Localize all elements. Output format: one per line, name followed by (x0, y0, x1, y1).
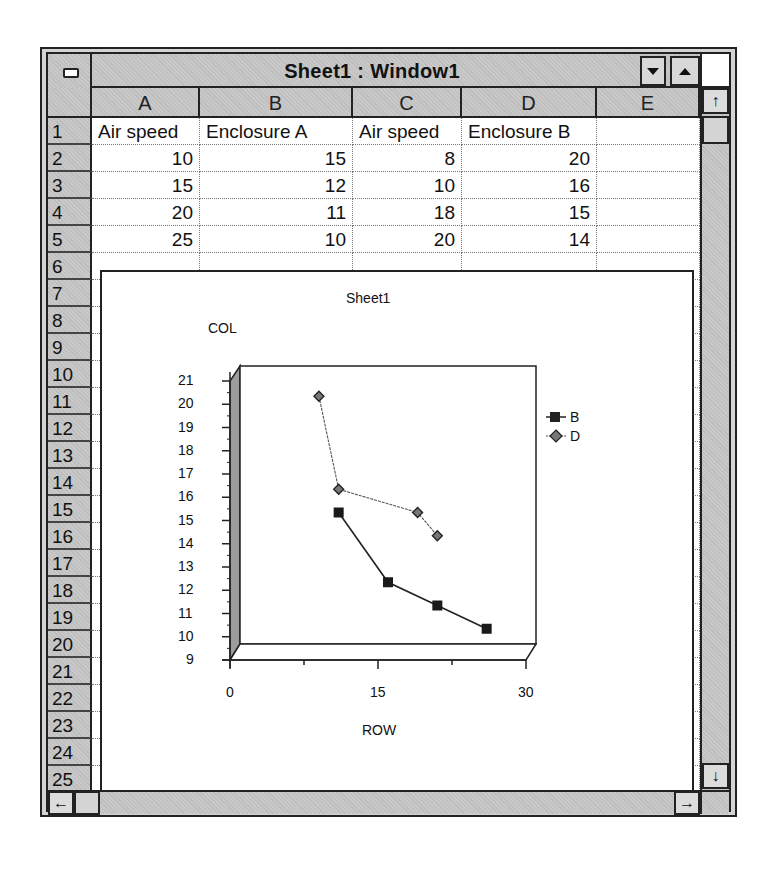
y-tick-label: 14 (178, 535, 194, 551)
cell-d3[interactable]: 16 (462, 172, 597, 199)
cell-d5[interactable]: 14 (462, 226, 597, 253)
chart-plot (102, 272, 692, 793)
row-header-21[interactable]: 21 (48, 658, 92, 685)
window-title: Sheet1 : Window1 (92, 54, 652, 88)
column-header-e[interactable]: E (597, 88, 700, 118)
y-tick-label: 13 (178, 558, 194, 574)
cell-d2[interactable]: 20 (462, 145, 597, 172)
cell-e4[interactable] (597, 199, 700, 226)
cell-a1[interactable]: Air speed (92, 118, 200, 145)
y-tick-label: 21 (178, 372, 194, 388)
row-header-19[interactable]: 19 (48, 604, 92, 631)
cell-e2[interactable] (597, 145, 700, 172)
column-header-a[interactable]: A (92, 88, 200, 118)
cell-d4[interactable]: 15 (462, 199, 597, 226)
cell-c5[interactable]: 20 (353, 226, 462, 253)
cell-b5[interactable]: 10 (200, 226, 353, 253)
maximize-button[interactable] (670, 56, 700, 86)
cell-a4[interactable]: 20 (92, 199, 200, 226)
size-box (700, 790, 729, 814)
legend-label-b: B (570, 409, 579, 425)
row-header-14[interactable]: 14 (48, 469, 92, 496)
chart-legend (546, 412, 566, 442)
row-header-15[interactable]: 15 (48, 496, 92, 523)
y-tick-label: 11 (178, 605, 193, 621)
cell-c4[interactable]: 18 (353, 199, 462, 226)
cell-a5[interactable]: 25 (92, 226, 200, 253)
triangle-down-icon (647, 68, 659, 75)
horizontal-scrollbar[interactable]: ← → (48, 790, 700, 814)
cell-b1[interactable]: Enclosure A (200, 118, 353, 145)
y-tick-label: 10 (178, 628, 194, 644)
y-tick-label: 20 (178, 395, 194, 411)
chart-title: Sheet1 (346, 290, 390, 306)
arrow-down-icon: ↓ (712, 767, 720, 785)
row-header-3[interactable]: 3 (48, 172, 92, 199)
control-menu-icon (63, 68, 79, 78)
row-header-22[interactable]: 22 (48, 685, 92, 712)
vertical-scrollbar[interactable]: ↑ ↓ (700, 88, 729, 791)
row-header-16[interactable]: 16 (48, 523, 92, 550)
row-header-9[interactable]: 9 (48, 334, 92, 361)
title-corner (700, 54, 729, 88)
row-header-5[interactable]: 5 (48, 226, 92, 253)
scroll-down-button[interactable]: ↓ (702, 763, 729, 789)
row-header-18[interactable]: 18 (48, 577, 92, 604)
cell-a3[interactable]: 15 (92, 172, 200, 199)
column-header-b[interactable]: B (200, 88, 353, 118)
row-header-12[interactable]: 12 (48, 415, 92, 442)
cell-c3[interactable]: 10 (353, 172, 462, 199)
select-all-corner[interactable] (48, 88, 92, 118)
cell-b2[interactable]: 15 (200, 145, 353, 172)
row-header-6[interactable]: 6 (48, 253, 92, 280)
row-header-7[interactable]: 7 (48, 280, 92, 307)
row-header-13[interactable]: 13 (48, 442, 92, 469)
arrow-right-icon: → (679, 794, 695, 812)
x-tick-label: 0 (226, 684, 234, 700)
cell-b3[interactable]: 12 (200, 172, 353, 199)
control-menu-button[interactable] (48, 54, 92, 88)
cell-a2[interactable]: 10 (92, 145, 200, 172)
row-header-11[interactable]: 11 (48, 388, 92, 415)
horizontal-scroll-thumb[interactable] (74, 791, 100, 815)
column-header-d[interactable]: D (462, 88, 597, 118)
chart-x-axis-label: ROW (362, 722, 396, 738)
vertical-scroll-thumb[interactable] (702, 116, 729, 144)
row-header-24[interactable]: 24 (48, 739, 92, 766)
row-header-8[interactable]: 8 (48, 307, 92, 334)
cell-e3[interactable] (597, 172, 700, 199)
column-header-c[interactable]: C (353, 88, 462, 118)
row-header-10[interactable]: 10 (48, 361, 92, 388)
row-header-25[interactable]: 25 (48, 766, 92, 793)
x-tick-label: 30 (518, 684, 534, 700)
cell-c1[interactable]: Air speed (353, 118, 462, 145)
arrow-up-icon: ↑ (712, 92, 720, 110)
scroll-right-button[interactable]: → (674, 791, 700, 815)
row-header-20[interactable]: 20 (48, 631, 92, 658)
cell-b4[interactable]: 11 (200, 199, 353, 226)
chart-y-axis-label: COL (208, 320, 237, 336)
arrow-left-icon: ← (53, 794, 69, 812)
y-tick-label: 12 (178, 581, 194, 597)
y-tick-label: 9 (186, 651, 194, 667)
x-tick-label: 15 (370, 684, 386, 700)
minimize-button[interactable] (640, 56, 666, 86)
embedded-chart[interactable]: Sheet1 COL ROW B D 910111213141516171819… (100, 270, 694, 795)
row-header-1[interactable]: 1 (48, 118, 92, 145)
row-header-2[interactable]: 2 (48, 145, 92, 172)
legend-label-d: D (570, 428, 580, 444)
triangle-up-icon (679, 68, 691, 75)
cell-e1[interactable] (597, 118, 700, 145)
row-header-4[interactable]: 4 (48, 199, 92, 226)
cell-e5[interactable] (597, 226, 700, 253)
scroll-left-button[interactable]: ← (48, 791, 74, 815)
y-tick-label: 17 (178, 465, 194, 481)
y-tick-label: 18 (178, 442, 194, 458)
y-tick-label: 16 (178, 488, 194, 504)
cell-c2[interactable]: 8 (353, 145, 462, 172)
row-header-23[interactable]: 23 (48, 712, 92, 739)
y-tick-label: 19 (178, 419, 194, 435)
cell-d1[interactable]: Enclosure B (462, 118, 597, 145)
scroll-up-button[interactable]: ↑ (702, 88, 729, 114)
row-header-17[interactable]: 17 (48, 550, 92, 577)
